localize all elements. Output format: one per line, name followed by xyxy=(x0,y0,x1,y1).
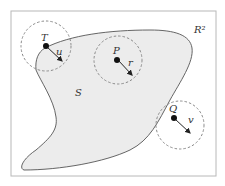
space-label: R² xyxy=(193,24,206,35)
point-p-label: P xyxy=(112,45,120,56)
vector-v-label: v xyxy=(188,114,194,125)
point-q-label: Q xyxy=(169,103,177,114)
diagram-canvas: R² S T u P r Q v xyxy=(0,0,225,186)
point-q xyxy=(171,115,177,121)
vector-u-label: u xyxy=(56,46,62,57)
point-p xyxy=(114,57,120,63)
set-label: S xyxy=(75,87,82,98)
point-t xyxy=(43,43,49,49)
